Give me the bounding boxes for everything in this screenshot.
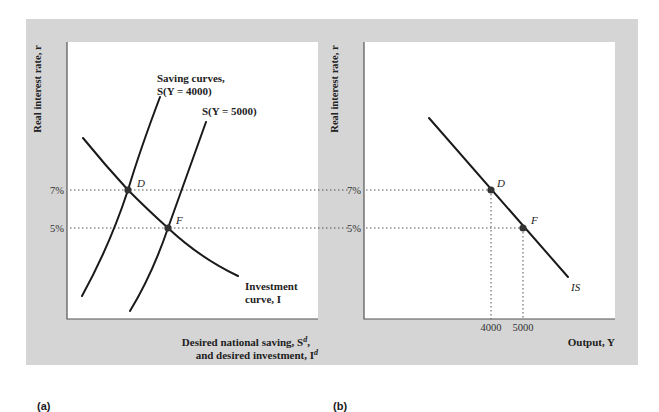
x-axis-label-a-line1: Desired national saving, Sd, (182, 335, 310, 348)
label-d-a: D (136, 177, 145, 189)
point-f-a (164, 224, 171, 231)
panel-b-label: (b) (333, 400, 347, 412)
ytick-7-a: 7% (50, 185, 64, 196)
y-axis-label-b: Real interest rate, r (329, 45, 340, 133)
xtick-5000: 5000 (513, 322, 534, 333)
point-f-b (519, 224, 526, 231)
x-axis-label-a-line2: and desired investment, Id (196, 348, 319, 361)
ytick-5-a: 5% (50, 223, 64, 234)
x-axis-label-b: Output, Y (568, 336, 615, 348)
label-f-a: F (175, 214, 183, 226)
label-f-b: F (530, 214, 538, 226)
xtick-4000: 4000 (481, 322, 502, 333)
ytick-7-b: 7% (347, 185, 361, 196)
ytick-5-b: 5% (347, 223, 361, 234)
saving-curves-label: Saving curves, (157, 72, 225, 84)
s5000-label: S(Y = 5000) (202, 105, 257, 118)
is-label: IS (570, 281, 581, 293)
label-d-b: D (496, 177, 505, 189)
y-axis-label-a: Real interest rate, r (32, 45, 43, 133)
point-d-a (124, 186, 131, 193)
point-d-b (487, 186, 494, 193)
investment-label-1: Investment (245, 280, 298, 292)
investment-label-2: curve, I (245, 293, 281, 305)
s4000-label: S(Y = 4000) (157, 85, 212, 98)
panel-a-label: (a) (37, 400, 50, 412)
plot-area-b (364, 42, 615, 319)
is-curve-figure: Real interest rate, r Real interest rate… (0, 0, 659, 412)
